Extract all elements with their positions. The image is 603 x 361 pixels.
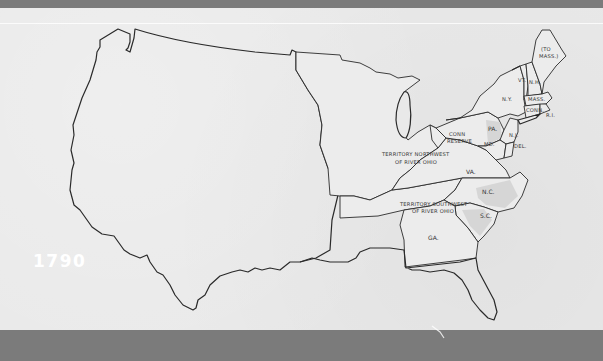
- delaware: [504, 142, 514, 158]
- label-ny: N.Y.: [502, 96, 512, 102]
- label-nj: N.J.: [509, 132, 519, 139]
- label-va: VA.: [466, 168, 476, 175]
- label-conn: CONN.: [526, 107, 544, 113]
- label-nc: N.C.: [482, 188, 495, 195]
- label-maine-2: MASS.): [539, 53, 558, 59]
- label-mass: MASS.: [528, 96, 545, 102]
- label-territory-sw-1: TERRITORY SOUTHWEST: [399, 201, 468, 207]
- label-pa: PA.: [488, 125, 497, 132]
- us-map-1790: (TO MASS.) VT. N.H. MASS. CONN. R.I. N.Y…: [0, 0, 603, 361]
- label-territory-nw-2: OF RIVER OHIO: [395, 159, 437, 165]
- label-nh: N.H.: [529, 79, 541, 85]
- label-vt: VT.: [518, 77, 527, 83]
- label-ga: GA.: [428, 234, 439, 241]
- new-york: [446, 66, 526, 120]
- year-label: 1790: [33, 251, 86, 271]
- label-territory-nw-1: TERRITORY NORTHWEST: [381, 151, 450, 157]
- label-sc: S.C.: [480, 212, 492, 219]
- label-conn-reserve-2: RESERVE: [447, 138, 472, 144]
- label-md: MD.: [484, 141, 495, 147]
- label-ri: R.I.: [546, 112, 555, 118]
- label-maine-1: (TO: [541, 46, 551, 52]
- label-territory-sw-2: OF RIVER OHIO: [412, 208, 454, 214]
- label-conn-reserve-1: CONN: [449, 131, 465, 137]
- scratch-mark: [432, 326, 444, 338]
- label-del: DEL.: [514, 143, 527, 149]
